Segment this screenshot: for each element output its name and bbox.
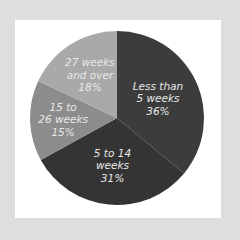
chart-panel: Less than 5 weeks 36%5 to 14 weeks 31%15… [15,20,221,218]
slice-label: Less than 5 weeks 36% [133,80,183,118]
slice-label: 27 weeks and over 18% [65,57,115,95]
slice-label: 15 to 26 weeks 15% [38,101,88,139]
slice-label: 5 to 14 weeks 31% [94,147,131,185]
